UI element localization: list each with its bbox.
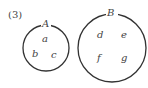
element-a: a — [42, 34, 48, 44]
element-e: e — [121, 30, 127, 40]
element-f: f — [97, 53, 101, 63]
problem-number: (3) — [8, 10, 22, 20]
set-a-circle — [23, 25, 69, 71]
set-a-label: A — [42, 19, 49, 29]
set-b-label: B — [107, 8, 114, 18]
element-c: c — [51, 50, 57, 60]
element-g: g — [121, 53, 127, 63]
set-b-circle — [78, 14, 146, 82]
venn-diagram — [0, 0, 148, 88]
element-d: d — [97, 30, 103, 40]
element-b: b — [32, 49, 38, 59]
